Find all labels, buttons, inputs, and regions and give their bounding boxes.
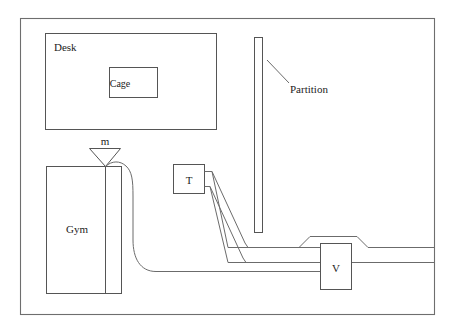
partition-label: Partition [290, 83, 328, 95]
gym-label: Gym [66, 223, 88, 235]
gym-to-valve-pipe [106, 162, 321, 272]
desk-label: Desk [54, 41, 77, 53]
mass-flow-label: m [101, 135, 110, 147]
funnel-shape [90, 149, 121, 167]
t-label: T [186, 174, 193, 186]
partition-leader-line [267, 60, 289, 83]
diagram-canvas: Desk Cage Partition Gym m T V [0, 0, 450, 331]
t-lower-pipe-diagonal [210, 187, 246, 263]
t-upper-pipe-diagonal [212, 172, 248, 248]
schematic-svg: Desk Cage Partition Gym m T V [0, 0, 450, 331]
valve-bypass-pipe [248, 237, 434, 248]
partition-box [255, 38, 263, 233]
cage-label: Cage [110, 78, 131, 89]
v-label: V [332, 262, 340, 274]
